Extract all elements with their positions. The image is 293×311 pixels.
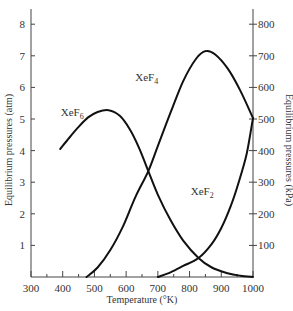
x-tick-label: 900 <box>213 282 230 294</box>
xef6-curve <box>60 110 253 277</box>
y-tick-label: 7 <box>20 50 26 62</box>
y-axis-title-right: Equilibrium pressures (kPa) <box>283 94 293 206</box>
x-tick-label: 600 <box>118 282 135 294</box>
x-tick-label: 400 <box>54 282 71 294</box>
y-tick-label: 2 <box>20 208 26 220</box>
y-right-tick-label: 500 <box>258 113 275 125</box>
xef2-curve <box>158 118 253 277</box>
x-tick-label: 500 <box>86 282 103 294</box>
x-axis-title: Temperature (°K) <box>107 294 178 306</box>
xef2-label: XeF2 <box>191 185 214 200</box>
xef4-curve <box>87 51 254 277</box>
xef4-label: XeF4 <box>135 71 158 86</box>
y-tick-label: 8 <box>20 18 26 30</box>
x-axis: 3004005006007008009001000 <box>23 271 265 294</box>
y-right-tick-label: 700 <box>258 50 275 62</box>
y-right-tick-label: 100 <box>258 239 275 251</box>
x-tick-label: 700 <box>150 282 167 294</box>
y-right-tick-label: 200 <box>258 208 275 220</box>
y-tick-label: 4 <box>20 145 26 157</box>
y-tick-label: 1 <box>20 239 26 251</box>
right-y-axis: 100200300400500600700800 <box>249 9 275 277</box>
x-tick-label: 800 <box>181 282 198 294</box>
y-tick-label: 3 <box>20 176 26 188</box>
x-tick-label: 300 <box>23 282 40 294</box>
y-right-tick-label: 800 <box>258 18 275 30</box>
y-axis-title-left: Equilibrium pressures (atm) <box>3 94 15 206</box>
x-tick-label: 1000 <box>242 282 265 294</box>
y-right-tick-label: 400 <box>258 145 275 157</box>
series-labels: XeF6XeF4XeF2 <box>61 71 214 200</box>
xef6-label: XeF6 <box>61 106 84 121</box>
y-right-tick-label: 600 <box>258 81 275 93</box>
equilibrium-pressure-chart: 12345678 100200300400500600700800 300400… <box>0 0 293 311</box>
y-right-tick-label: 300 <box>258 176 275 188</box>
y-tick-label: 6 <box>20 81 26 93</box>
y-tick-label: 5 <box>20 113 26 125</box>
left-y-axis: 12345678 <box>20 9 36 277</box>
